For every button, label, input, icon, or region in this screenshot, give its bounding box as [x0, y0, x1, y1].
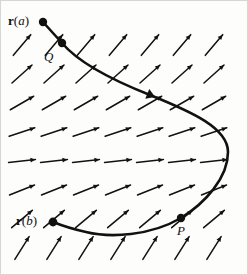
field-arrow [137, 158, 164, 163]
oriented-curve [43, 22, 228, 235]
field-arrow [169, 185, 194, 195]
curve-layer [43, 22, 228, 235]
field-arrow [137, 127, 163, 136]
field-arrow [169, 127, 195, 136]
field-arrowhead [125, 127, 130, 131]
field-arrowhead [189, 127, 194, 131]
label-r-b-close: ) [33, 213, 37, 228]
field-arrow [105, 185, 130, 195]
field-arrowhead [157, 127, 162, 131]
field-arrow [44, 65, 64, 83]
field-arrow [137, 185, 162, 195]
field-arrowhead [221, 127, 226, 131]
field-arrow [205, 35, 222, 56]
point-marker-p [177, 214, 185, 222]
field-arrow [73, 158, 100, 163]
field-arrow [169, 158, 196, 163]
field-arrow [140, 65, 160, 83]
field-arrow [204, 210, 225, 227]
figure-canvas [0, 0, 248, 275]
field-arrow [41, 158, 68, 163]
field-arrow [109, 35, 126, 56]
label-p: P [177, 224, 185, 237]
label-r-a: r(a) [8, 14, 29, 27]
field-arrow [12, 65, 32, 83]
field-arrow [140, 210, 161, 227]
field-arrow [10, 96, 33, 110]
field-arrow [105, 127, 131, 136]
field-arrow [9, 127, 35, 136]
field-arrow [108, 210, 129, 227]
field-arrow [41, 185, 66, 195]
field-arrow [47, 237, 61, 260]
label-r-a-close: ) [25, 13, 29, 28]
field-arrow [77, 35, 94, 56]
field-arrow [41, 127, 67, 136]
field-arrow [111, 237, 125, 260]
point-marker-q [58, 39, 66, 47]
field-arrow [172, 65, 192, 83]
field-arrow [73, 185, 98, 195]
vector-field-layer [9, 35, 228, 260]
label-r-b: r(b) [16, 214, 37, 227]
field-arrow [202, 96, 225, 110]
point-marker-r-a [39, 18, 47, 26]
field-arrow [9, 185, 34, 195]
field-arrow [173, 35, 190, 56]
field-arrow [9, 158, 36, 163]
label-q: Q [44, 50, 53, 63]
field-arrow [175, 237, 189, 260]
field-arrow [105, 158, 132, 163]
field-arrowhead [61, 127, 66, 131]
field-arrow [13, 35, 30, 56]
field-arrow [143, 237, 157, 260]
field-arrow [201, 158, 228, 163]
field-arrow [207, 237, 221, 260]
field-arrow [73, 127, 99, 136]
point-marker-r-b [49, 218, 58, 227]
field-arrow [79, 237, 93, 260]
field-arrow [204, 65, 224, 83]
field-arrow [76, 210, 97, 227]
field-arrow [74, 96, 97, 110]
points-layer [39, 18, 185, 227]
field-arrow [15, 237, 29, 260]
vector-field-figure: r(a) r(b) Q P [0, 0, 248, 275]
field-arrowhead [93, 127, 98, 131]
field-arrow [106, 96, 129, 110]
field-arrowhead [29, 127, 34, 131]
field-arrow [42, 96, 65, 110]
field-arrow [141, 35, 158, 56]
